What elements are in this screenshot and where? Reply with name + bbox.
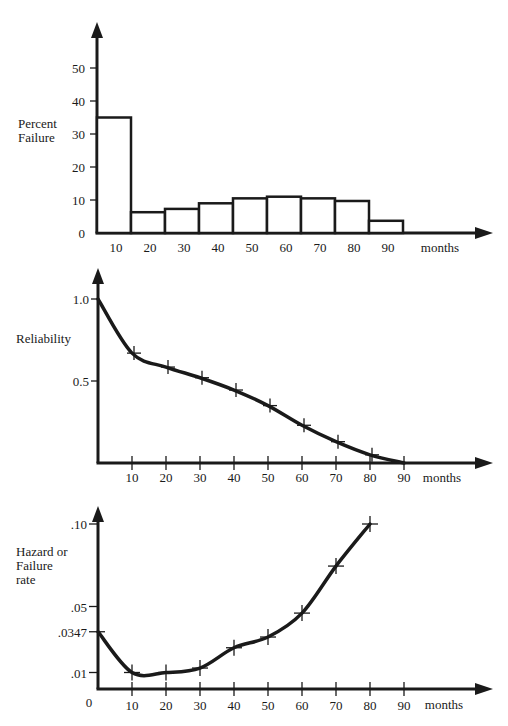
histogram-bar — [335, 201, 369, 233]
x-tick-label: 50 — [246, 240, 259, 255]
histogram-bar — [369, 221, 403, 233]
x-tick-label: 80 — [364, 698, 377, 713]
histogram-bar — [131, 212, 165, 233]
x-tick-label: 40 — [228, 470, 241, 485]
y-tick-label: 40 — [72, 94, 85, 109]
y-tick-label: .10 — [71, 517, 87, 532]
histogram-bar — [97, 118, 131, 234]
x-tick-label: 60 — [280, 240, 293, 255]
x-tick-label: 40 — [228, 698, 241, 713]
chart-canvas: 01020304050102030405060708090monthsPerce… — [0, 0, 508, 726]
y-axis-label: Failure — [18, 130, 55, 145]
y-tick-label: 0 — [79, 226, 86, 241]
x-tick-label: 60 — [296, 698, 309, 713]
x-tick-label: 10 — [110, 240, 123, 255]
y-axis-label: Reliability — [16, 331, 71, 346]
x-tick-label: 90 — [398, 698, 411, 713]
x-tick-label: 40 — [212, 240, 225, 255]
y-axis-label: Hazard or — [16, 544, 68, 559]
x-tick-label: 80 — [348, 240, 361, 255]
x-tick-label: 30 — [178, 240, 191, 255]
y-axis-label: rate — [16, 572, 36, 587]
x-tick-label: 30 — [194, 470, 207, 485]
reliability-curve — [98, 299, 404, 463]
y-axis-arrow-icon — [92, 506, 104, 522]
x-tick-label: 70 — [330, 470, 343, 485]
chart-figure: 01020304050102030405060708090monthsPerce… — [0, 0, 508, 726]
percent-failure-histogram: 01020304050102030405060708090monthsPerce… — [18, 22, 493, 255]
x-axis-arrow-icon — [475, 457, 493, 469]
hazard-rate-chart: 0.01.0347.05.10102030405060708090monthsH… — [16, 506, 493, 713]
x-axis-label: months — [423, 470, 461, 485]
y-tick-label: 1.0 — [73, 292, 89, 307]
x-tick-label: 20 — [144, 240, 157, 255]
x-tick-label: 90 — [382, 240, 395, 255]
y-tick-label: .05 — [71, 600, 87, 615]
histogram-bar — [267, 197, 301, 233]
y-tick-label: 20 — [72, 160, 85, 175]
x-tick-label: 90 — [398, 470, 411, 485]
x-tick-label: 60 — [296, 470, 309, 485]
histogram-bar — [165, 209, 199, 233]
x-axis-arrow-icon — [475, 683, 493, 695]
x-axis-label: months — [421, 240, 459, 255]
y-axis-label: Failure — [16, 558, 53, 573]
x-tick-label: 10 — [126, 470, 139, 485]
x-tick-label: 50 — [262, 470, 275, 485]
y-axis-arrow-icon — [92, 268, 104, 284]
reliability-chart: 0.51.0102030405060708090monthsReliabilit… — [16, 268, 493, 485]
y-tick-label: 10 — [72, 193, 85, 208]
x-tick-label: 70 — [330, 698, 343, 713]
histogram-bar — [233, 198, 267, 233]
histogram-bar — [199, 203, 233, 233]
y-axis-arrow-icon — [91, 22, 103, 38]
x-tick-label: 20 — [160, 698, 173, 713]
histogram-bar — [301, 198, 335, 233]
y-tick-label: 50 — [72, 61, 85, 76]
y-tick-label: 30 — [72, 127, 85, 142]
x-tick-label: 80 — [364, 470, 377, 485]
y-tick-label: 0 — [86, 695, 93, 710]
x-axis-arrow-icon — [475, 227, 493, 239]
x-tick-label: 70 — [314, 240, 327, 255]
x-tick-label: 10 — [126, 698, 139, 713]
x-tick-label: 30 — [194, 698, 207, 713]
y-tick-label: .0347 — [58, 625, 88, 640]
x-tick-label: 50 — [262, 698, 275, 713]
y-tick-label: .01 — [71, 666, 87, 681]
x-axis-label: months — [425, 697, 463, 712]
x-tick-label: 20 — [160, 470, 173, 485]
y-axis-label: Percent — [18, 116, 57, 131]
y-tick-label: 0.5 — [73, 374, 89, 389]
